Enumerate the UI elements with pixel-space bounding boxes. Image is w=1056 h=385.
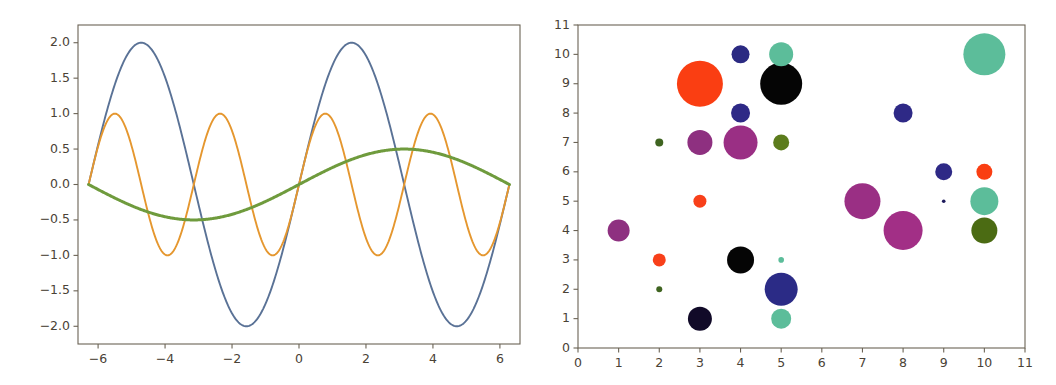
- scatter-point: [727, 246, 754, 273]
- scatter-point: [963, 33, 1005, 75]
- x-axis-tick-label: 11: [1017, 355, 1033, 370]
- scatter-point: [773, 134, 789, 150]
- x-axis-tick-label: 10: [976, 355, 992, 370]
- y-axis-tick-label: 9: [562, 75, 570, 90]
- scatter-point: [688, 307, 712, 331]
- y-axis-tick-label: −2.0: [40, 318, 70, 333]
- x-axis-tick-label: −6: [89, 351, 107, 366]
- scatter-chart-panel: 0123456789101101234567891011: [528, 0, 1056, 385]
- scatter-point: [884, 211, 923, 250]
- y-axis-tick-label: 7: [562, 134, 570, 149]
- x-axis-tick-label: −4: [156, 351, 174, 366]
- y-axis-tick-label: 2: [562, 281, 570, 296]
- y-axis-tick-label: 10: [554, 46, 570, 61]
- y-axis-tick-label: −1.5: [40, 282, 70, 297]
- y-axis-tick-label: 6: [562, 163, 570, 178]
- line-chart-panel: −2.0−1.5−1.0−0.50.00.51.01.52.0−6−4−2024…: [0, 0, 528, 385]
- scatter-point: [760, 63, 802, 105]
- x-axis-tick-label: 8: [899, 355, 907, 370]
- scatter-point: [970, 187, 998, 215]
- figure-canvas: −2.0−1.5−1.0−0.50.00.51.01.52.0−6−4−2024…: [0, 0, 1056, 385]
- x-axis-tick-label: 4: [429, 351, 437, 366]
- scatter-point: [935, 163, 952, 180]
- scatter-point: [693, 195, 706, 208]
- x-axis-tick-label: 5: [777, 355, 785, 370]
- x-axis-tick-label: 7: [858, 355, 866, 370]
- y-axis-tick-label: 0.5: [50, 141, 70, 156]
- scatter-chart-axes-frame: [578, 25, 1025, 348]
- y-axis-tick-label: 3: [562, 251, 570, 266]
- x-axis-tick-label: 2: [655, 355, 663, 370]
- y-axis-tick-label: 4: [562, 222, 570, 237]
- x-axis-tick-label: 1: [615, 355, 623, 370]
- y-axis-tick-label: 2.0: [50, 34, 70, 49]
- x-axis-tick-label: −2: [223, 351, 241, 366]
- scatter-point: [677, 61, 723, 107]
- x-axis-tick-label: 6: [818, 355, 826, 370]
- scatter-point: [769, 42, 793, 66]
- y-axis-tick-label: 8: [562, 105, 570, 120]
- y-axis-tick-label: 5: [562, 193, 570, 208]
- scatter-point: [608, 220, 630, 242]
- x-axis-tick-label: 2: [362, 351, 370, 366]
- y-axis-tick-label: 1.5: [50, 70, 70, 85]
- x-axis-tick-label: 4: [737, 355, 745, 370]
- y-axis-tick-label: 1: [562, 310, 570, 325]
- x-axis-tick-label: 9: [940, 355, 948, 370]
- scatter-point: [731, 104, 750, 123]
- x-axis-tick-label: 6: [496, 351, 504, 366]
- y-axis-tick-label: −0.5: [40, 211, 70, 226]
- scatter-point: [976, 164, 992, 180]
- line-series-0-5-sin-0-5x-: [89, 149, 510, 220]
- scatter-point: [687, 130, 712, 155]
- scatter-point: [771, 309, 791, 329]
- x-axis-tick-label: 3: [696, 355, 704, 370]
- scatter-point: [655, 138, 663, 146]
- x-axis-tick-label: 0: [574, 355, 582, 370]
- scatter-point: [971, 218, 997, 244]
- scatter-point: [942, 199, 946, 203]
- scatter-point: [732, 45, 750, 63]
- scatter-point: [894, 104, 913, 123]
- scatter-point: [844, 183, 880, 219]
- scatter-point: [724, 125, 758, 159]
- y-axis-tick-label: 11: [554, 17, 570, 32]
- x-axis-tick-label: 0: [295, 351, 303, 366]
- line-chart-svg: −2.0−1.5−1.0−0.50.00.51.01.52.0−6−4−2024…: [0, 0, 528, 385]
- scatter-point: [765, 273, 798, 306]
- scatter-point: [653, 253, 666, 266]
- scatter-chart-svg: 0123456789101101234567891011: [528, 0, 1056, 385]
- y-axis-tick-label: 0.0: [50, 176, 70, 191]
- scatter-point: [656, 286, 662, 292]
- y-axis-tick-label: 0: [562, 340, 570, 355]
- scatter-point: [778, 257, 784, 263]
- y-axis-tick-label: 1.0: [50, 105, 70, 120]
- y-axis-tick-label: −1.0: [40, 247, 70, 262]
